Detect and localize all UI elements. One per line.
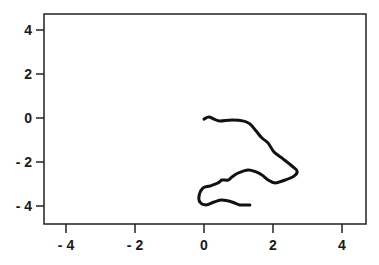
line-chart: 420- 2- 4 - 4- 2024 (0, 0, 379, 265)
y-tick-label: 0 (24, 110, 32, 126)
x-tick-label: - 2 (127, 237, 144, 253)
y-tick-label: 2 (24, 66, 32, 82)
y-tick-label: 4 (24, 22, 32, 38)
x-tick-label: 0 (200, 237, 208, 253)
x-tick-label: 2 (269, 237, 277, 253)
y-axis: 420- 2- 4 (16, 22, 44, 214)
y-tick-label: - 2 (16, 154, 33, 170)
x-axis: - 4- 2024 (58, 224, 346, 253)
x-tick-label: 4 (338, 237, 346, 253)
y-tick-label: - 4 (16, 198, 33, 214)
x-tick-label: - 4 (58, 237, 75, 253)
